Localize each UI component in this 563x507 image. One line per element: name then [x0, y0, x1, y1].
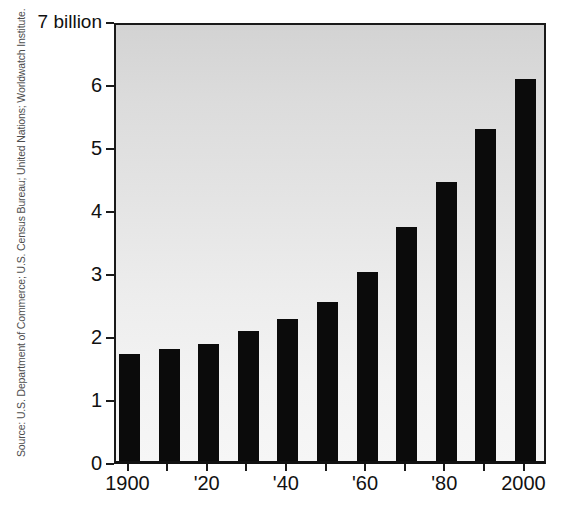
x-tick-label-1980: '80 — [431, 471, 457, 495]
y-tick-label-7: 7 billion — [38, 12, 102, 32]
y-tick-mark-5 — [106, 148, 114, 150]
y-tick-label-2: 2 — [91, 327, 102, 347]
y-tick-mark-1 — [106, 400, 114, 402]
bar-1910 — [159, 349, 180, 461]
bar-1990 — [475, 129, 496, 461]
bar-2000 — [515, 79, 536, 461]
bar-1900 — [119, 354, 140, 461]
y-tick-label-1: 1 — [91, 390, 102, 410]
bar-1930 — [238, 331, 259, 461]
y-tick-label-4: 4 — [91, 201, 102, 221]
bar-1980 — [436, 182, 457, 461]
x-tick-mark-1980 — [443, 464, 445, 471]
plot-area — [114, 23, 546, 464]
y-tick-mark-0 — [106, 463, 114, 465]
y-tick-mark-2 — [106, 337, 114, 339]
bar-1940 — [277, 319, 298, 461]
y-tick-mark-3 — [106, 274, 114, 276]
y-tick-label-5: 5 — [91, 138, 102, 158]
x-tick-label-2000: 2000 — [501, 471, 546, 495]
x-axis: 1900'20'40'60'802000 — [114, 464, 546, 507]
x-tick-mark-1970 — [404, 464, 406, 471]
x-tick-mark-1950 — [325, 464, 327, 471]
y-tick-mark-4 — [106, 211, 114, 213]
x-tick-mark-1920 — [206, 464, 208, 471]
y-axis: 7 billion6543210 — [0, 0, 114, 507]
x-tick-label-1960: '60 — [352, 471, 378, 495]
y-tick-mark-7 — [106, 22, 114, 24]
y-tick-label-0: 0 — [91, 453, 102, 473]
bars-layer — [116, 25, 544, 461]
bar-1960 — [357, 272, 378, 461]
y-tick-label-3: 3 — [91, 264, 102, 284]
x-tick-mark-1910 — [166, 464, 168, 471]
x-tick-mark-1960 — [364, 464, 366, 471]
bar-1970 — [396, 227, 417, 461]
x-tick-mark-1940 — [285, 464, 287, 471]
y-tick-label-6: 6 — [91, 75, 102, 95]
bar-1950 — [317, 302, 338, 461]
x-tick-mark-1900 — [127, 464, 129, 471]
x-tick-label-1900: 1900 — [105, 471, 150, 495]
x-tick-label-1920: '20 — [194, 471, 220, 495]
bar-1920 — [198, 344, 219, 461]
x-tick-mark-1990 — [483, 464, 485, 471]
x-tick-label-1940: '40 — [273, 471, 299, 495]
y-tick-mark-6 — [106, 85, 114, 87]
x-tick-mark-2000 — [523, 464, 525, 471]
population-bar-chart: Source: U.S. Department of Commerce; U.S… — [0, 0, 563, 507]
x-tick-mark-1930 — [245, 464, 247, 471]
